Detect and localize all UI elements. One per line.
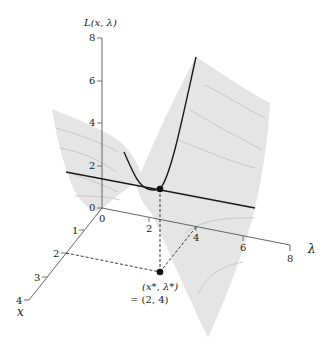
x-tick-label: 3	[34, 272, 40, 283]
z-tick-label: 2	[89, 160, 95, 171]
lambda-tick-label: 2	[146, 223, 152, 234]
lagrangian-surface-figure: L(x, λ) 8 6 4 2 0 0 2 4 6 8 λ 1 2 3 4 x …	[0, 0, 331, 351]
x-axis-label: x	[17, 305, 24, 319]
z-axis-label: L(x, λ)	[83, 17, 117, 28]
lambda-tick-label: 8	[287, 253, 293, 264]
z-tick-label: 6	[89, 75, 95, 86]
x-tick-label: 1	[72, 225, 78, 236]
saddle-point-marker	[157, 186, 164, 193]
saddle-point-label-line2: = (2, 4)	[130, 294, 169, 305]
z-tick-label: 4	[89, 117, 95, 128]
lambda-tick-label: 0	[99, 213, 105, 224]
saddle-point-label-line1: (x*, λ*)	[142, 281, 178, 292]
projection-x-line	[66, 253, 160, 272]
x-axis-line	[24, 208, 102, 300]
lambda-tick-label: 4	[193, 232, 199, 243]
lambda-axis-label: λ	[307, 242, 316, 256]
z-tick-label: 8	[89, 32, 95, 43]
z-tick-label: 0	[89, 202, 95, 213]
x-tick-label: 2	[53, 248, 59, 259]
lambda-tick-label: 6	[240, 242, 246, 253]
saddle-point-projection-marker	[157, 269, 164, 276]
